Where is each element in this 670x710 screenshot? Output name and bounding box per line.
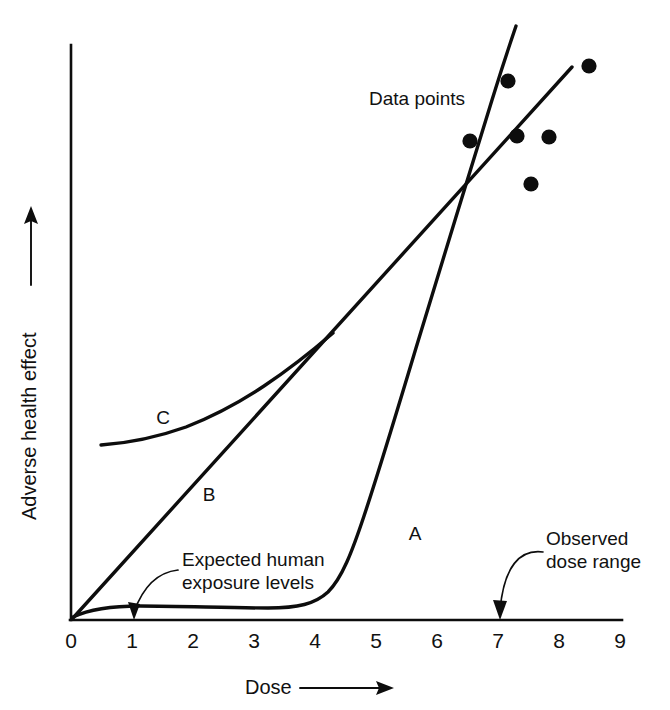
x-tick-label: 8 (553, 629, 565, 652)
curve-a-path (73, 26, 516, 617)
expected-exposure-label-line1: Expected human (182, 549, 325, 570)
data-point (509, 128, 524, 143)
y-axis-title-group: Adverse health effect (18, 206, 40, 520)
data-points-annotation: Data points (369, 88, 465, 109)
observed-range-label-line2: dose range (546, 551, 641, 572)
chart-canvas: C B A Data points Expected human e (0, 0, 670, 710)
data-point (500, 73, 515, 88)
x-tick-label: 1 (126, 629, 138, 652)
dose-response-figure: C B A Data points Expected human e (0, 0, 670, 710)
axis-group (70, 45, 622, 620)
data-points-label: Data points (369, 88, 465, 109)
x-tick-labels: 0 1 2 3 4 5 6 7 8 9 (65, 629, 626, 652)
x-tick-label: 3 (248, 629, 260, 652)
expected-exposure-arrow-head (128, 602, 140, 620)
x-tick-label: 6 (431, 629, 443, 652)
observed-range-label-line1: Observed (546, 528, 628, 549)
x-axis-title: Dose (245, 676, 292, 698)
x-tick-label: 7 (492, 629, 504, 652)
x-tick-label: 0 (65, 629, 77, 652)
data-point (581, 58, 596, 73)
y-axis-title: Adverse health effect (18, 332, 40, 520)
x-tick-label: 4 (309, 629, 321, 652)
data-point (523, 176, 538, 191)
data-point (541, 129, 556, 144)
expected-exposure-annotation: Expected human exposure levels (128, 549, 325, 620)
x-tick-label: 2 (187, 629, 199, 652)
x-axis-title-group: Dose (245, 676, 394, 698)
curve-b-group: B (73, 67, 572, 618)
curve-a-group: A (73, 26, 516, 617)
observed-range-arrow-head (493, 600, 507, 620)
curve-c-group: C (101, 333, 333, 445)
data-point (462, 133, 477, 148)
curve-c-path (101, 333, 333, 445)
curve-a-label: A (409, 523, 422, 544)
expected-exposure-label-line2: exposure levels (182, 572, 314, 593)
curve-c-label: C (156, 407, 170, 428)
curve-b-label: B (203, 484, 216, 505)
x-tick-label: 5 (370, 629, 382, 652)
x-tick-label: 9 (614, 629, 626, 652)
observed-range-annotation: Observed dose range (493, 528, 641, 620)
curve-b-path (73, 67, 572, 618)
